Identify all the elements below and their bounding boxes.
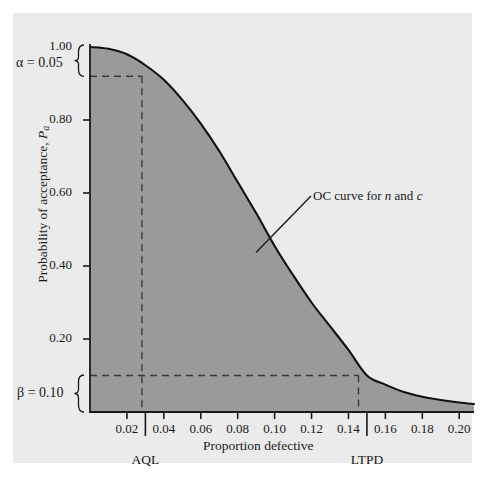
y-tick-label: 0.80 [12,111,72,127]
ltpd-marker-label: LTPD [337,452,397,468]
oc-curve-leader-line [256,196,311,253]
beta-value: = 0.10 [24,385,63,400]
x-tick-label: 0.20 [434,421,484,437]
oc-curve-plot [0,0,490,480]
y-tick-label: 0.40 [12,257,72,273]
alpha-label: α = 0.05 [16,55,63,71]
oc-curve-annotation: OC curve for n and c [313,188,422,204]
oc-annotation-middle: and [391,188,416,203]
aql-marker-label: AQL [115,452,175,468]
oc-annotation-c: c [417,188,423,203]
y-axis-title-symbol: P [35,131,50,139]
oc-annotation-prefix: OC curve for [313,188,385,203]
figure-container: Probability of acceptance, Pa Proportion… [0,0,490,480]
y-axis-title: Probability of acceptance, Pa [35,99,52,309]
alpha-value: = 0.05 [23,55,62,70]
curve-fill-area [90,47,474,412]
y-tick-label: 0.60 [12,184,72,200]
y-tick-label: 0.20 [12,330,72,346]
beta-brace-glyph [75,375,85,412]
x-axis-ticks [127,412,459,419]
alpha-brace-glyph [75,45,85,76]
y-tick-label: 1.00 [12,38,72,54]
y-axis-ticks [83,120,90,339]
beta-label: β = 0.10 [17,385,64,401]
x-axis-title: Proportion defective [203,438,314,454]
